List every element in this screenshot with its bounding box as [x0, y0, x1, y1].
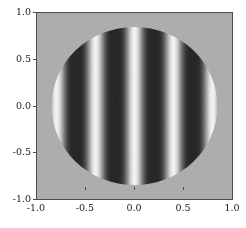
figure-canvas: -1.0-0.50.00.51.0 1.00.50.0-0.5-1.0	[0, 0, 246, 228]
y-tick-mark	[33, 12, 36, 13]
y-tick-mark	[33, 199, 36, 200]
image-noise-texture	[37, 13, 232, 199]
x-tick-mark	[134, 187, 135, 190]
x-tick-label: 1.0	[224, 203, 239, 213]
x-tick-mark	[36, 187, 37, 190]
y-tick-mark	[33, 59, 36, 60]
x-tick-label: 0.0	[126, 203, 141, 213]
y-tick-label: -0.5	[13, 148, 31, 158]
y-tick-mark	[33, 152, 36, 153]
x-tick-mark	[183, 187, 184, 190]
x-tick-label: 0.5	[175, 203, 190, 213]
image-plot-layer	[37, 13, 232, 199]
plot-axes-frame	[36, 12, 233, 200]
x-tick-label: -0.5	[76, 203, 94, 213]
y-tick-label: 1.0	[16, 7, 31, 17]
x-tick-mark	[232, 187, 233, 190]
y-tick-label: -1.0	[13, 194, 31, 204]
y-tick-mark	[33, 106, 36, 107]
x-tick-mark	[85, 187, 86, 190]
y-tick-label: 0.0	[16, 101, 31, 111]
x-tick-label: -1.0	[27, 203, 45, 213]
y-tick-label: 0.5	[16, 54, 31, 64]
